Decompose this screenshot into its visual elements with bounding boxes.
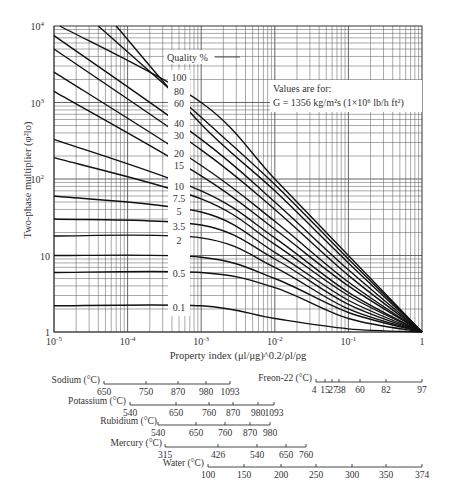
y-tick-label: 1: [45, 327, 50, 338]
y-tick-label: 10: [40, 251, 50, 262]
scale-name: Potassium (°C): [68, 396, 126, 407]
curve-label: 100: [172, 72, 187, 83]
scale-tick-label: 540: [151, 428, 166, 438]
scale-sodium: Sodium (°C)6507508709801093: [52, 375, 240, 397]
x-tick-label: 10-3: [193, 335, 209, 347]
scale-water: Water (°C)100150200250300350374: [163, 458, 430, 480]
two-phase-multiplier-chart: 100806040302015107.553.520.50.1 Values a…: [0, 0, 452, 499]
scale-tick-label: 980: [199, 387, 214, 397]
x-tick-label: 10-1: [340, 335, 356, 347]
scale-tick-label: 60: [355, 385, 365, 395]
scale-tick-label: 100: [201, 470, 216, 480]
y-tick-label: 103: [31, 97, 45, 109]
scale-tick-label: 250: [309, 470, 324, 480]
curve-label: 0.1: [173, 302, 186, 313]
x-axis-ticks: 10-510-410-310-210-11: [46, 335, 424, 347]
annotation-line-2: G = 1356 kg/m²s (1×10⁶ lb/h ft²): [273, 97, 404, 109]
curve-label: 15: [174, 160, 184, 171]
curve-label: 5: [177, 206, 182, 217]
x-tick-label: 1: [420, 336, 425, 347]
scale-mercury: Mercury (°C)315426540650760: [110, 438, 313, 460]
scale-tick-label: 97: [417, 385, 427, 395]
scale-tick-label: 980: [251, 408, 266, 418]
x-axis-title: Property index (μl/μg)^0.2/ρl/ρg: [170, 350, 307, 362]
quality-curve-1: [54, 255, 422, 332]
scale-potassium: Potassium (°C)5406507608709801093: [68, 396, 284, 418]
y-axis-ticks: 110102103104: [31, 20, 51, 338]
scale-tick-label: 980: [263, 428, 278, 438]
curve-label: 40: [174, 118, 184, 129]
scale-tick-label: 760: [299, 450, 314, 460]
scale-tick-label: 1093: [265, 408, 284, 418]
scale-name: Sodium (°C): [52, 375, 100, 386]
scale-tick-label: 300: [345, 470, 360, 480]
x-tick-label: 10-4: [120, 335, 136, 347]
scale-name: Mercury (°C): [110, 438, 162, 449]
scale-freon-22: Freon-22 (°C)4152738608297: [258, 373, 427, 395]
scale-tick-label: 150: [237, 470, 252, 480]
legend-title: Quality %: [167, 52, 208, 63]
curve-label: 60: [174, 98, 184, 109]
curve-label: 20: [174, 148, 184, 159]
scale-tick-label: 4: [312, 385, 317, 395]
curve-label: 10: [174, 181, 184, 192]
scale-tick-label: 870: [171, 387, 186, 397]
scale-name: Rubidium (°C): [100, 416, 157, 427]
scale-tick-label: 540: [250, 450, 265, 460]
scale-tick-label: 426: [211, 450, 226, 460]
y-tick-label: 104: [31, 20, 45, 32]
curve-label: 0.5: [173, 268, 186, 279]
scale-tick-label: 870: [243, 428, 258, 438]
scale-tick-label: 1093: [221, 387, 240, 397]
x-tick-label: 10-2: [267, 335, 283, 347]
scale-name: Water (°C): [163, 458, 204, 469]
scale-tick-label: 82: [381, 385, 391, 395]
curve-label: 3.5: [173, 221, 186, 232]
scale-tick-label: 870: [226, 408, 241, 418]
scale-tick-label: 760: [218, 428, 233, 438]
scale-tick-label: 650: [189, 428, 204, 438]
scale-tick-label: 650: [169, 408, 184, 418]
scale-rubidium: Rubidium (°C)540650760870980: [100, 416, 277, 438]
scale-tick-label: 760: [202, 408, 217, 418]
scale-name: Freon-22 (°C): [258, 373, 312, 384]
quality-curve-2: [54, 235, 422, 332]
curve-label: 2: [177, 235, 182, 246]
annotation-box: Values are for: G = 1356 kg/m²s (1×10⁶ l…: [270, 80, 422, 112]
scale-tick-label: 38: [336, 385, 346, 395]
scale-tick-label: 750: [139, 387, 154, 397]
temperature-scales: Sodium (°C)6507508709801093Potassium (°C…: [52, 373, 430, 480]
curve-label: 80: [174, 86, 184, 97]
scale-tick-label: 200: [274, 470, 289, 480]
annotation-line-1: Values are for:: [273, 83, 331, 94]
curve-label: 30: [174, 130, 184, 141]
scale-tick-label: 350: [379, 470, 394, 480]
scale-tick-label: 374: [415, 470, 430, 480]
y-axis-title: Two-phase multiplier (φ²lo): [22, 121, 34, 238]
curve-labels: 100806040302015107.553.520.50.1: [168, 70, 190, 316]
curve-label: 7.5: [173, 193, 186, 204]
legend-title-group: Quality %: [164, 50, 240, 64]
scale-tick-label: 650: [279, 450, 294, 460]
